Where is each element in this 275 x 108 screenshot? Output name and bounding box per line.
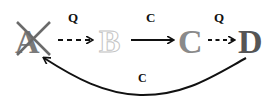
edge-a-b-label: Q	[68, 10, 78, 25]
edge-d-a: C	[44, 58, 246, 95]
node-d-label: D	[238, 23, 263, 60]
edge-d-a-label: C	[138, 71, 147, 85]
node-b: B	[99, 23, 120, 59]
edge-c-d-label: Q	[214, 10, 224, 25]
node-c-label: C	[178, 23, 203, 60]
edge-c-d: Q	[208, 10, 234, 40]
node-c: C	[178, 23, 203, 60]
node-d: D	[238, 23, 263, 60]
edge-b-c-label: C	[146, 10, 155, 25]
diagram-canvas: A Q B C C Q D C	[0, 0, 275, 108]
node-a: A	[15, 22, 50, 60]
edge-b-c: C	[131, 10, 173, 40]
edge-a-b: Q	[58, 10, 92, 40]
node-b-label: B	[99, 23, 120, 59]
